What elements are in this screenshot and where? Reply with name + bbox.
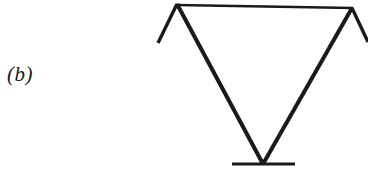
right-diagonal [263, 8, 352, 164]
figure-panel: (b) [0, 0, 368, 190]
left-upper-stub [158, 4, 177, 43]
triangle-diagram [0, 0, 368, 190]
top-horizontal-bar [176, 5, 353, 8]
diagram-stroke-group [158, 4, 368, 164]
left-diagonal [177, 4, 263, 164]
right-upper-stub [352, 8, 368, 42]
